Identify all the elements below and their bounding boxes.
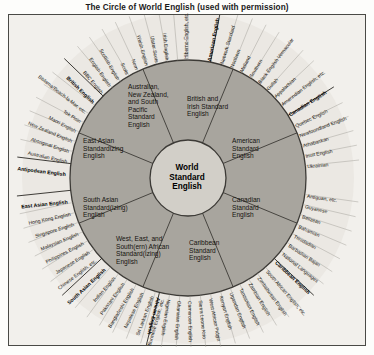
variety-label-text: Hiberno-English, etc. bbox=[184, 13, 189, 59]
variety-label-text: Cameroon English bbox=[187, 301, 193, 342]
circle-diagram: East AsianStandardizingEnglishAustralian… bbox=[9, 15, 365, 345]
core-label-line: English bbox=[9, 182, 365, 192]
variety-label: Cameroon English bbox=[187, 301, 193, 342]
variety-label: Hiberno-English, etc. bbox=[184, 13, 189, 59]
diagram-frame: East AsianStandardizingEnglishAustralian… bbox=[8, 14, 366, 346]
variety-label-text: Irish English bbox=[162, 33, 170, 61]
